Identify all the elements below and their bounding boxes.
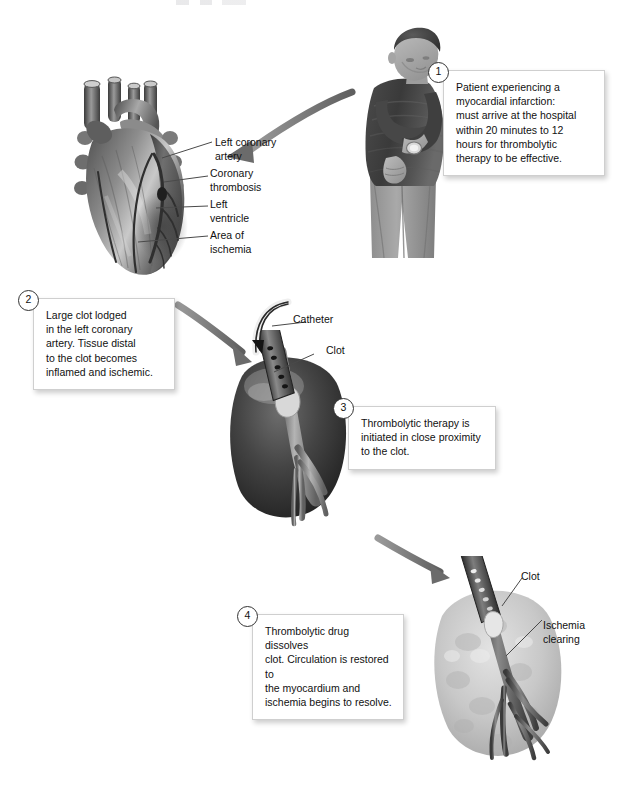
callout-step-3: Thrombolytic therapy is initiated in clo…: [348, 406, 496, 470]
callout-step-4: Thrombolytic drug dissolves clot. Circul…: [252, 614, 404, 720]
illustration-canvas: Left coronary artery Coronary thrombosis…: [0, 0, 617, 791]
step-badge-1: 1: [428, 62, 449, 83]
label-area-of-ischemia: Area of ischemia: [210, 229, 251, 256]
label-catheter: Catheter: [293, 313, 333, 327]
callout-step-2: Large clot lodged in the left coronary a…: [33, 298, 175, 390]
step-badge-4: 4: [237, 606, 258, 627]
callout-step-1: Patient experiencing a myocardial infarc…: [443, 70, 605, 176]
label-left-ventricle: Left ventricle: [210, 198, 249, 225]
step-badge-2: 2: [18, 290, 39, 311]
wristwatch: [407, 142, 422, 154]
label-coronary-thrombosis: Coronary thrombosis: [210, 167, 261, 194]
label-ischemia-clearing: Ischemia clearing: [543, 619, 585, 646]
step-badge-3: 3: [333, 398, 354, 419]
label-left-coronary-artery: Left coronary artery: [215, 136, 276, 163]
label-clot-middle: Clot: [326, 344, 345, 358]
label-clot-bottom: Clot: [521, 570, 540, 584]
